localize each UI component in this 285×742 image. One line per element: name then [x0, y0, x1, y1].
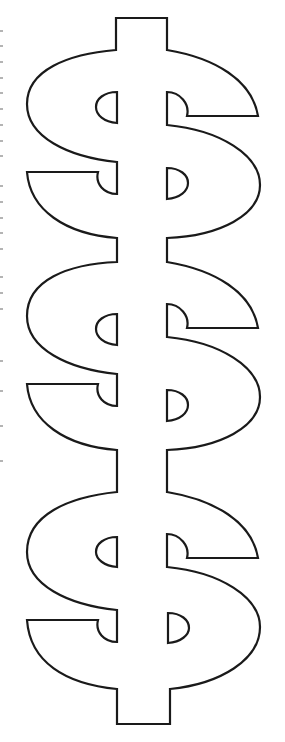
dollar-signs-outline [27, 18, 260, 724]
stacked-dollar-signs [0, 0, 285, 742]
